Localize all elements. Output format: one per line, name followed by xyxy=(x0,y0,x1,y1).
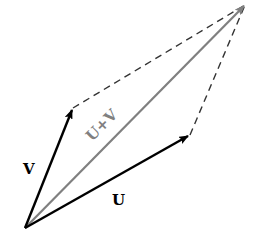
vector-parallelogram-diagram: V U U+V xyxy=(0,0,255,246)
vector-u-arrow xyxy=(25,136,188,228)
label-v: V xyxy=(22,160,35,178)
dashed-edge-u-to-sum xyxy=(190,5,245,135)
sum-vector-arrow xyxy=(25,6,244,228)
label-sum: U+V xyxy=(82,105,121,144)
label-u: U xyxy=(112,191,125,209)
